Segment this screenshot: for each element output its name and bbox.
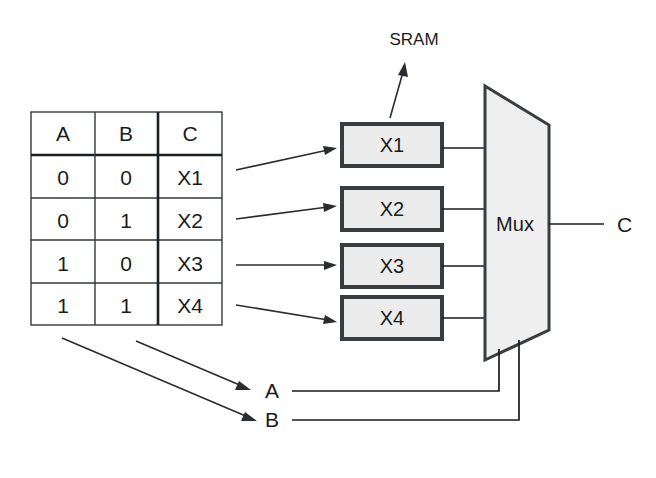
- table-row: 0 1 X2: [57, 209, 203, 232]
- mux-output: C: [549, 213, 632, 236]
- table-cell-b: 1: [120, 294, 132, 317]
- sram-cell-label: X1: [380, 134, 404, 156]
- table-cell-c: X4: [177, 294, 203, 317]
- sram-pointer-arrow-icon: [390, 62, 408, 118]
- arrow-to-x1-icon: [236, 146, 337, 170]
- sram-annotation: SRAM: [389, 30, 438, 118]
- sram-cell-x3[interactable]: X3: [342, 245, 442, 287]
- sram-cell-x1[interactable]: X1: [342, 124, 442, 166]
- table-header-c: C: [182, 122, 197, 145]
- truth-table: A B C 0 0 X1 0 1 X2 1 0 X3: [31, 112, 222, 325]
- table-row: 1 0 X3: [57, 252, 203, 275]
- sram-mux-diagram: A B C 0 0 X1 0 1 X2 1 0 X3: [0, 0, 656, 478]
- cell-to-mux-wires: [442, 148, 486, 318]
- mux-label: Mux: [496, 213, 534, 235]
- diagram-canvas: A B C 0 0 X1 0 1 X2 1 0 X3: [0, 0, 656, 478]
- sram-cell-x2[interactable]: X2: [342, 188, 442, 230]
- output-label-c: C: [617, 213, 632, 236]
- select-label-a: A: [265, 379, 279, 402]
- table-cell-b: 1: [120, 209, 132, 232]
- mux[interactable]: Mux: [485, 86, 549, 360]
- table-cell-a: 1: [57, 294, 69, 317]
- sram-cell-label: X4: [380, 307, 404, 329]
- sram-cell-label: X2: [380, 198, 404, 220]
- table-cell-a: 0: [57, 166, 69, 189]
- sram-label: SRAM: [389, 30, 438, 49]
- table-cell-a: 1: [57, 252, 69, 275]
- table-header-b: B: [119, 122, 133, 145]
- table-row: 0 0 X1: [57, 166, 203, 189]
- table-row: 1 1 X4: [57, 294, 203, 317]
- table-cell-b: 0: [120, 166, 132, 189]
- arrow-to-a-icon: [136, 341, 251, 390]
- arrow-to-x3-icon: [236, 261, 337, 270]
- arrow-to-x2-icon: [236, 203, 337, 219]
- sram-cell-x4[interactable]: X4: [342, 297, 442, 339]
- table-to-select-arrows: [62, 338, 257, 421]
- table-header-a: A: [56, 122, 70, 145]
- table-to-cell-arrows: [236, 146, 337, 324]
- table-cell-c: X2: [177, 209, 203, 232]
- wire-select-a: [292, 349, 499, 391]
- sram-cell-label: X3: [380, 255, 404, 277]
- select-label-b: B: [265, 408, 279, 431]
- select-lines: A B: [265, 340, 519, 431]
- arrow-to-x4-icon: [236, 305, 337, 324]
- table-cell-b: 0: [120, 252, 132, 275]
- sram-cells: X1 X2 X3 X4: [342, 124, 442, 339]
- table-cell-c: X1: [177, 166, 203, 189]
- table-cell-a: 0: [57, 209, 69, 232]
- table-cell-c: X3: [177, 252, 203, 275]
